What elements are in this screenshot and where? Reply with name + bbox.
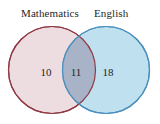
venn-diagram: Mathematics English 10 11 18	[0, 0, 160, 124]
venn-circles-graphic	[0, 0, 160, 124]
count-mathematics-only: 10	[38, 66, 54, 78]
count-english-only: 18	[100, 66, 116, 78]
count-intersection: 11	[68, 66, 84, 78]
